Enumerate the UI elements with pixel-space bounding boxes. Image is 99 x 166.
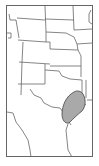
map-canvas [0,0,99,166]
range-map [0,0,99,166]
